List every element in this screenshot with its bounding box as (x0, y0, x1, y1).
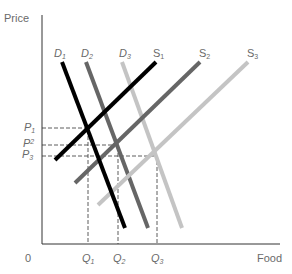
x-axis-label: Food (257, 252, 282, 264)
supply-label-s2: S2 (199, 47, 210, 60)
quantity-label-q2: Q2 (113, 252, 126, 265)
origin-label: 0 (25, 252, 31, 264)
quantity-label-q3: Q3 (151, 252, 164, 265)
price-label-p3: P3 (22, 148, 33, 161)
demand-label-d2: D2 (81, 47, 93, 60)
supply-demand-diagram: Price Food 0 D1 D2 D3 S1 S2 S3 P1 P2 P3 … (0, 0, 292, 274)
supply-curve-s3 (98, 62, 248, 205)
y-axis-label: Price (4, 12, 29, 24)
price-label-p1: P1 (24, 121, 35, 134)
supply-label-s1: S1 (153, 47, 164, 60)
demand-label-d1: D1 (54, 47, 66, 60)
guide-lines (42, 128, 157, 244)
quantity-label-q1: Q1 (82, 252, 95, 265)
supply-label-s3: S3 (247, 47, 258, 60)
guide-p3-q3 (42, 156, 157, 244)
demand-label-d3: D3 (119, 47, 131, 60)
